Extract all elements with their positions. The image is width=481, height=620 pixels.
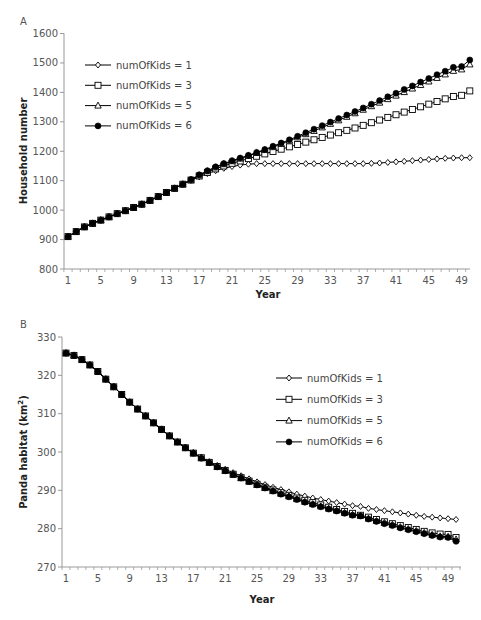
data-point-square xyxy=(467,88,473,94)
data-point-circle-filled xyxy=(318,504,324,510)
data-point-circle-filled xyxy=(413,529,419,535)
data-point-diamond xyxy=(369,160,374,166)
data-point-diamond xyxy=(358,503,363,509)
data-point-circle-filled xyxy=(434,72,440,78)
data-point-circle-filled xyxy=(401,86,407,92)
y-axis-label-b-main: Panda habitat (km xyxy=(18,405,29,509)
x-tick-label: 41 xyxy=(378,573,391,584)
x-tick-label: 37 xyxy=(346,573,359,584)
y-tick-label: 1500 xyxy=(33,57,58,68)
data-point-circle-filled xyxy=(418,79,424,85)
y-tick-label: 800 xyxy=(39,264,58,275)
data-point-circle-filled xyxy=(122,208,128,214)
data-point-circle-filled xyxy=(188,177,194,183)
legend-label: numOfKids = 1 xyxy=(116,60,192,71)
data-point-circle-filled xyxy=(377,98,383,104)
data-point-circle-filled xyxy=(326,506,332,512)
data-point-diamond xyxy=(246,161,251,167)
data-point-circle-filled xyxy=(453,538,459,544)
data-point-diamond xyxy=(344,161,349,167)
x-axis-label-b: Year xyxy=(249,594,275,605)
data-point-circle-filled xyxy=(319,123,325,129)
legend-b: numOfKids = 1numOfKids = 3numOfKids = 5n… xyxy=(276,373,383,448)
legend-item: numOfKids = 3 xyxy=(85,80,192,91)
data-point-circle-filled xyxy=(365,516,371,522)
data-point-circle-filled xyxy=(81,224,87,230)
data-point-circle-filled xyxy=(238,475,244,481)
data-point-circle-filled xyxy=(98,217,104,223)
data-point-diamond xyxy=(287,161,292,167)
data-point-circle-filled xyxy=(87,362,93,368)
data-point-circle-filled xyxy=(246,479,252,485)
data-point-circle-filled xyxy=(159,426,165,432)
y-tick-label: 1200 xyxy=(33,146,58,157)
data-point-circle-filled xyxy=(467,57,473,63)
data-point-diamond xyxy=(426,156,431,162)
data-point-square xyxy=(368,120,374,126)
x-tick-label: 45 xyxy=(410,573,423,584)
data-point-circle-filled xyxy=(222,468,228,474)
data-point-diamond xyxy=(366,505,371,511)
x-tick-label: 29 xyxy=(283,573,296,584)
y-tick-label: 280 xyxy=(37,523,56,534)
data-point-circle-filled xyxy=(286,494,292,500)
legend-label: numOfKids = 6 xyxy=(116,120,192,131)
data-point-circle-filled xyxy=(311,126,317,132)
data-point-circle-filled xyxy=(445,534,451,540)
data-point-square xyxy=(426,101,432,107)
data-point-circle-filled xyxy=(373,518,379,524)
data-point-square xyxy=(286,144,292,150)
y-tick-label: 300 xyxy=(37,447,56,458)
data-point-circle-filled xyxy=(270,488,276,494)
y-tick-label: 1600 xyxy=(33,28,58,39)
data-point-circle-filled xyxy=(230,472,236,478)
data-point-circle-filled xyxy=(254,149,260,155)
data-point-circle-filled xyxy=(270,143,276,149)
series-line xyxy=(68,158,470,237)
data-point-circle-filled xyxy=(198,455,204,461)
data-point-circle-filled xyxy=(342,510,348,516)
data-point-circle-filled xyxy=(180,181,186,187)
legend-item: numOfKids = 6 xyxy=(276,436,383,447)
data-point-square xyxy=(327,132,333,138)
y-axis-ticks-a: 8009001000110012001300140015001600 xyxy=(33,28,64,275)
data-point-circle-filled xyxy=(172,185,178,191)
data-point-square xyxy=(434,99,440,105)
y-tick-label: 1400 xyxy=(33,87,58,98)
series-line xyxy=(66,353,456,519)
data-point-diamond xyxy=(467,155,472,161)
data-point-square xyxy=(278,146,284,152)
legend-marker-circle-filled xyxy=(286,439,292,445)
data-point-circle-filled xyxy=(262,146,268,152)
data-point-circle-filled xyxy=(397,525,403,531)
data-point-diamond xyxy=(336,161,341,167)
x-axis-ticks-b: 15913172125293337414549 xyxy=(62,567,460,584)
data-point-diamond xyxy=(374,507,379,513)
legend-a: numOfKids = 1numOfKids = 3numOfKids = 5n… xyxy=(85,60,192,132)
panel-b-habitat-chart: B 270280290300310320330 1591317212529333… xyxy=(17,319,461,605)
data-point-circle-filled xyxy=(426,76,432,82)
data-point-circle-filled xyxy=(327,119,333,125)
data-point-circle-filled xyxy=(143,413,149,419)
x-tick-label: 21 xyxy=(219,573,232,584)
x-tick-label: 33 xyxy=(314,573,327,584)
data-point-circle-filled xyxy=(262,485,268,491)
data-point-square xyxy=(311,137,317,143)
data-point-diamond xyxy=(385,159,390,165)
x-tick-label: 17 xyxy=(187,573,200,584)
y-tick-label: 270 xyxy=(37,562,56,573)
data-point-circle-filled xyxy=(360,105,366,111)
data-point-circle-filled xyxy=(103,376,109,382)
data-point-circle-filled xyxy=(350,512,356,518)
x-tick-label: 25 xyxy=(258,275,271,286)
data-point-circle-filled xyxy=(421,531,427,537)
data-point-diamond xyxy=(414,512,419,518)
legend-marker-circle-filled xyxy=(95,123,101,129)
legend-marker-square xyxy=(286,396,292,402)
legend-label: numOfKids = 5 xyxy=(116,100,192,111)
x-tick-label: 49 xyxy=(455,275,468,286)
x-axis-ticks-a: 15913172125293337414549 xyxy=(64,269,468,286)
data-point-circle-filled xyxy=(163,189,169,195)
data-point-circle-filled xyxy=(409,83,415,89)
legend-label: numOfKids = 5 xyxy=(307,415,383,426)
